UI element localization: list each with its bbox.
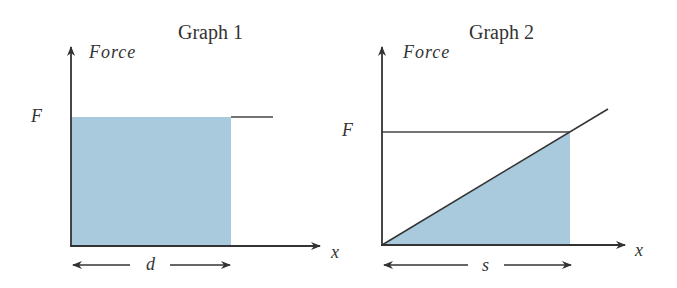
graph-1-title: Graph 1 xyxy=(178,22,243,42)
graph-2-title: Graph 2 xyxy=(469,22,534,42)
graph-2-x-axis-label: x xyxy=(635,241,643,259)
graph-1 xyxy=(70,47,320,265)
graph-1-span-label: d xyxy=(146,255,155,273)
graph-2 xyxy=(381,47,625,265)
graph-1-shaded-area xyxy=(71,117,231,246)
graph-1-y-axis-label: Force xyxy=(89,43,136,61)
graph-2-level-label: F xyxy=(342,121,353,139)
graph-1-level-label: F xyxy=(31,107,42,125)
graph-2-span-label: s xyxy=(482,256,489,274)
graph-1-x-axis-label: x xyxy=(331,243,339,261)
graph-2-y-axis-label: Force xyxy=(403,43,450,61)
